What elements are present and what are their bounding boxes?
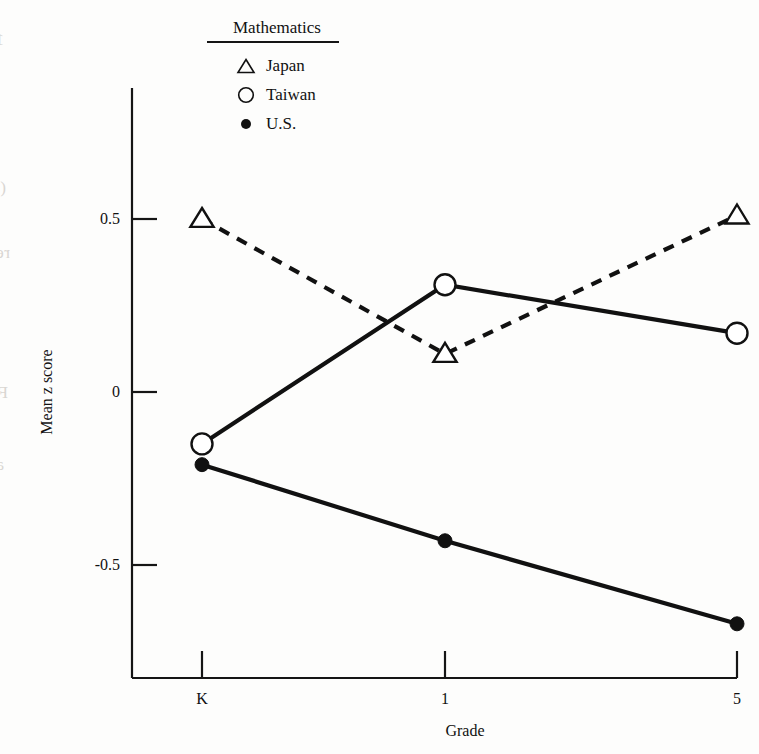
marker-filled-circle bbox=[438, 534, 452, 548]
y-axis-ticks bbox=[132, 219, 157, 565]
plot-canvas bbox=[0, 0, 759, 754]
x-axis-ticks bbox=[202, 651, 737, 678]
y-axis-title: Mean z score bbox=[38, 349, 56, 434]
axis-lines bbox=[132, 88, 737, 678]
y-tick-label: -0.5 bbox=[72, 556, 120, 574]
marker-open-circle bbox=[435, 274, 456, 295]
x-tick-label: 5 bbox=[733, 690, 741, 708]
y-tick-label: 0 bbox=[72, 383, 120, 401]
series-line-japan bbox=[202, 216, 737, 354]
series-line-taiwan bbox=[202, 285, 737, 444]
series-markers bbox=[190, 205, 748, 631]
scanned-page: 1 sel (1994) res Furnace average Mathema… bbox=[0, 0, 759, 754]
series-line-us bbox=[202, 465, 737, 624]
marker-filled-circle bbox=[195, 458, 209, 472]
y-tick-label: 0.5 bbox=[72, 210, 120, 228]
mathematics-line-chart: Mathematics Japan Taiwan bbox=[0, 0, 759, 754]
x-tick-label: K bbox=[196, 690, 208, 708]
marker-open-circle bbox=[192, 433, 213, 454]
marker-filled-circle bbox=[730, 617, 744, 631]
marker-open-triangle bbox=[190, 208, 213, 227]
series-lines bbox=[202, 216, 737, 624]
marker-open-circle bbox=[727, 323, 748, 344]
marker-open-triangle bbox=[726, 205, 749, 224]
x-axis-title: Grade bbox=[445, 722, 484, 740]
x-tick-label: 1 bbox=[441, 690, 449, 708]
